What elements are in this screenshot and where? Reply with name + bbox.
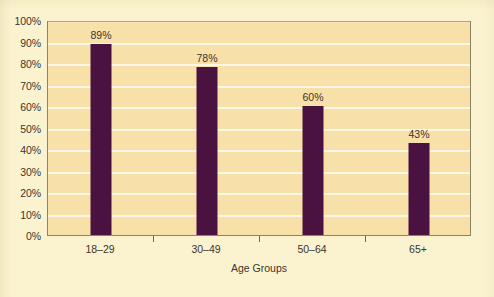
x-axis-tick-mark bbox=[365, 236, 366, 242]
bar-65+[interactable] bbox=[409, 143, 430, 235]
y-axis-tick-label: 80% bbox=[20, 58, 41, 70]
y-axis-tick-label: 20% bbox=[20, 187, 41, 199]
bar-18–29[interactable] bbox=[91, 44, 112, 235]
bar-slot: 60% bbox=[260, 22, 366, 235]
y-axis-tick-label: 100% bbox=[15, 15, 41, 27]
bar-value-label: 43% bbox=[408, 128, 429, 140]
y-axis-tick-label: 40% bbox=[20, 144, 41, 156]
x-axis-tick-label: 18–29 bbox=[85, 243, 114, 255]
plot-area: 89%78%60%43% bbox=[47, 21, 471, 236]
x-axis-tick-mark bbox=[153, 236, 154, 242]
x-axis-title: Age Groups bbox=[47, 262, 471, 274]
chart-figure: 100%90%80%70%60%50%40%30%20%10%0% 89%78%… bbox=[0, 0, 494, 297]
y-axis-tick-label: 0% bbox=[26, 230, 41, 242]
bar-slot: 43% bbox=[366, 22, 472, 235]
x-axis-tick-label: 30–49 bbox=[191, 243, 220, 255]
y-axis-tick-label: 90% bbox=[20, 37, 41, 49]
y-axis-tick-label: 10% bbox=[20, 209, 41, 221]
y-axis: 100%90%80%70%60%50%40%30%20%10%0% bbox=[0, 12, 44, 244]
y-axis-tick-label: 60% bbox=[20, 101, 41, 113]
bar-value-label: 60% bbox=[302, 91, 323, 103]
bar-slot: 78% bbox=[154, 22, 260, 235]
bars-layer: 89%78%60%43% bbox=[48, 22, 470, 235]
y-axis-tick-label: 30% bbox=[20, 166, 41, 178]
bar-30–49[interactable] bbox=[197, 67, 218, 235]
bar-value-label: 78% bbox=[196, 52, 217, 64]
x-axis-tick-label: 65+ bbox=[409, 243, 427, 255]
y-axis-tick-label: 50% bbox=[20, 123, 41, 135]
x-axis: 18–2930–4950–6465+ bbox=[47, 236, 471, 264]
bar-50–64[interactable] bbox=[303, 106, 324, 235]
y-axis-tick-label: 70% bbox=[20, 80, 41, 92]
source-note bbox=[6, 289, 306, 296]
x-axis-tick-label: 50–64 bbox=[297, 243, 326, 255]
bar-value-label: 89% bbox=[90, 29, 111, 41]
bar-slot: 89% bbox=[48, 22, 154, 235]
x-axis-tick-mark bbox=[259, 236, 260, 242]
